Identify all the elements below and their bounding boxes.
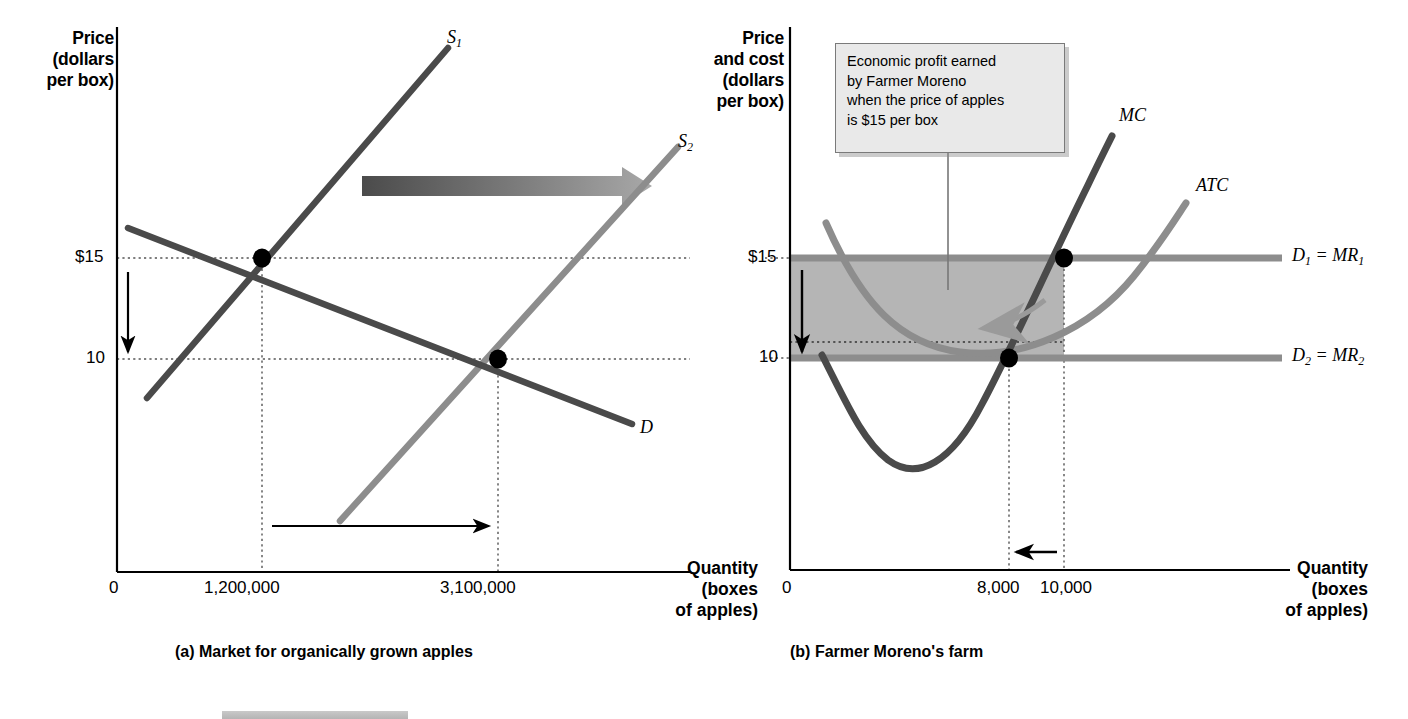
curve-label-d2-base: D — [1292, 345, 1305, 365]
panel-b-xtick-10000: 10,000 — [1040, 578, 1092, 598]
curve-label-d1-mr1: D1 = MR1 — [1292, 245, 1364, 266]
curve-label-mr1-base: MR — [1332, 245, 1358, 265]
curve-label-mr2-sub: 2 — [1358, 354, 1364, 368]
output-dot-10000 — [1055, 249, 1073, 268]
panel-b-ytick-10: 10 — [759, 347, 778, 367]
panel-b-x-axis-title: Quantity (boxes of apples) — [1240, 558, 1368, 621]
panel-b-ytick-15: $15 — [748, 247, 776, 267]
curve-label-d1-eq: = — [1311, 245, 1332, 265]
panel-b-y-axis-title: Price and cost (dollars per box) — [688, 28, 784, 112]
curve-label-d1-sub: 1 — [1305, 254, 1311, 268]
curve-label-d2-sub: 2 — [1305, 354, 1311, 368]
curve-label-mr1-sub: 1 — [1358, 254, 1364, 268]
output-dot-8000 — [1000, 349, 1018, 368]
panel-b-origin-label: 0 — [782, 578, 791, 598]
curve-label-d2-mr2: D2 = MR2 — [1292, 345, 1364, 366]
curve-label-mr2-base: MR — [1332, 345, 1358, 365]
curve-label-mc: MC — [1119, 105, 1146, 126]
panel-b-farm: Price and cost (dollars per box) Quantit… — [0, 0, 1408, 719]
panel-b-xtick-8000: 8,000 — [977, 578, 1020, 598]
curve-label-d1-base: D — [1292, 245, 1305, 265]
figure-container: Price (dollars per box) Quantity (boxes … — [0, 0, 1408, 719]
economic-profit-callout: Economic profit earned by Farmer Moreno … — [835, 43, 1065, 153]
figure-caption-bar-cropped — [222, 711, 408, 719]
curve-label-atc: ATC — [1196, 175, 1228, 196]
curve-label-d2-eq: = — [1311, 345, 1332, 365]
panel-b-caption: (b) Farmer Moreno's farm — [790, 643, 983, 661]
